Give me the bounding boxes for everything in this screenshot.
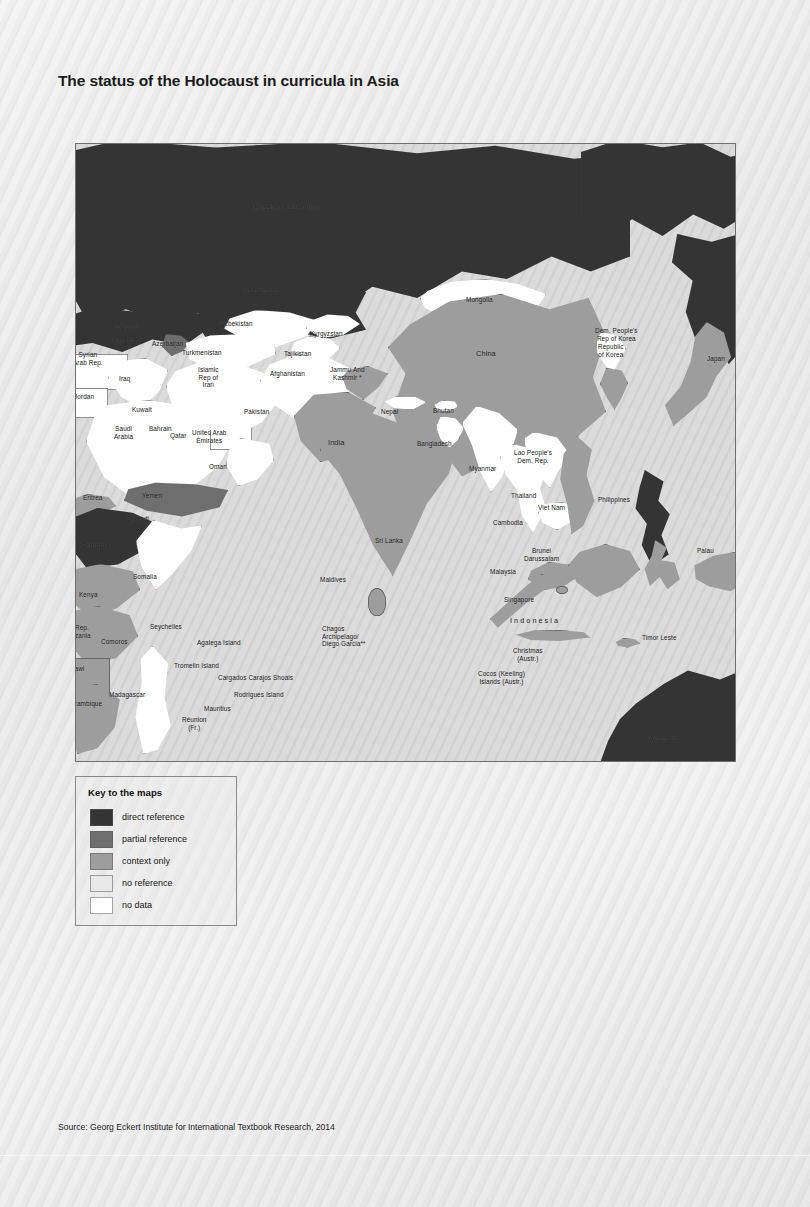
- map-label-ethiopia: Ethiopia: [82, 542, 110, 551]
- legend-swatch-direct-reference: [90, 809, 113, 826]
- map-label-kyrgyzstan: Kyrgyzstan: [310, 330, 343, 338]
- source-note: Source: Georg Eckert Institute for Inter…: [58, 1122, 335, 1132]
- map-label-eritrea: Eritrea: [83, 494, 103, 502]
- map-label-kuwait: Kuwait: [132, 406, 152, 414]
- map-label-republic-of-korea: Republic of Korea: [598, 343, 624, 358]
- map-label-mongolia: Mongolia: [466, 296, 493, 304]
- figure-sheet: The status of the Holocaust in curricula…: [0, 0, 810, 1207]
- map-label-united-rep-of-tanzania: Rep. zania: [75, 624, 91, 639]
- map-label-azerbaijan: Azerbaijan: [152, 340, 183, 348]
- map-label-malawi: lawi: [75, 665, 84, 673]
- country-singapore[interactable]: [556, 586, 568, 594]
- map-label-indonesia: Indonesia: [510, 617, 560, 625]
- legend-label-context-only: context only: [122, 856, 170, 866]
- asia-choropleth-map[interactable]: Russian Federation Kazakhstan Mongolia C…: [75, 143, 736, 762]
- map-label-jammu-and-kashmir: Jammu And Kashmir *: [330, 366, 365, 381]
- map-label-russian-federation: Russian Federation: [254, 204, 320, 213]
- map-label-jordan: Jordan: [75, 393, 94, 401]
- map-label-india: India: [328, 439, 345, 448]
- map-label-cargados-carajos-shoals: Cargados Carajos Shoals: [218, 674, 293, 682]
- legend-item-no-reference[interactable]: no reference: [90, 875, 173, 891]
- legend-swatch-no-reference: [90, 875, 113, 892]
- map-label-bhutan: Bhutan: [433, 407, 454, 415]
- map-label-saudi-arabia: Saudi Arabia: [114, 425, 133, 440]
- legend-item-context-only[interactable]: context only: [90, 853, 170, 869]
- map-label-afghanistan: Afghanistan: [270, 370, 305, 378]
- map-legend: Key to the maps direct reference partial…: [75, 776, 237, 926]
- map-label-chagos-archipelago-diego-garcia: Chagos Archipelago/ Diego Garcia**: [322, 625, 366, 648]
- map-label-comoros: Comoros: [101, 638, 128, 646]
- map-label-djibouti: Djibouti: [127, 515, 149, 523]
- map-label-seychelles: Seychelles: [150, 623, 182, 631]
- map-label-malaysia: Malaysia: [490, 568, 516, 576]
- map-label-uzbekistan: Uzbekistan: [220, 320, 253, 328]
- map-label-tromelin-island: Tromelin Island: [174, 662, 219, 670]
- legend-swatch-context-only: [90, 853, 113, 870]
- map-label-yemen: Yemen: [142, 492, 162, 500]
- map-label-turkmenistan: Turkmenistan: [182, 349, 222, 357]
- map-label-iraq: Iraq: [119, 375, 130, 383]
- map-label-cocos-keeling-islands-austr: Cocos (Keeling) Islands (Austr.): [478, 670, 525, 685]
- map-label-mauritius: Mauritius: [204, 705, 231, 713]
- map-label-cambodia: Cambodia: [493, 519, 523, 527]
- map-label-palau: Palau: [697, 547, 714, 555]
- map-label-tajikistan: Tajikistan: [284, 350, 311, 358]
- map-label-armenia: Armenia: [112, 337, 137, 345]
- legend-label-no-reference: no reference: [122, 878, 173, 888]
- legend-label-partial-reference: partial reference: [122, 834, 187, 844]
- map-label-reunion-fr: Réunion (Fr.): [182, 716, 207, 731]
- legend-item-direct-reference[interactable]: direct reference: [90, 809, 185, 825]
- country-sri-lanka[interactable]: [368, 588, 386, 616]
- map-label-pakistan: Pakistan: [244, 408, 269, 416]
- map-label-australia: Australia: [649, 735, 679, 744]
- map-label-bangladesh: Bangladesh: [417, 440, 452, 448]
- legend-swatch-no-data: [90, 897, 113, 914]
- map-label-singapore: Singapore: [504, 596, 534, 604]
- map-label-mozambique: ozambique: [75, 700, 102, 708]
- map-label-syrian-arab-rep: Syrian Arab Rep.: [75, 351, 103, 366]
- page-title: The status of the Holocaust in curricula…: [58, 72, 399, 90]
- map-label-oman: Oman: [209, 463, 227, 471]
- map-label-japan: Japan: [707, 355, 725, 363]
- map-label-madagascar: Madagascar: [109, 691, 145, 699]
- map-label-agalega-island: Agalega Island: [197, 639, 241, 647]
- map-label-rodrigues-island: Rodrigues Island: [234, 691, 284, 699]
- map-label-china: China: [476, 350, 496, 359]
- map-label-united-arab-emirates: United Arab Emirates: [192, 429, 227, 444]
- source-divider: [0, 1155, 810, 1156]
- legend-label-no-data: no data: [122, 900, 152, 910]
- map-label-philippines: Philippines: [598, 496, 630, 504]
- map-label-nepal: Nepal: [381, 408, 398, 416]
- map-label-maldives: Maldives: [320, 576, 346, 584]
- map-label-kazakhstan: Kazakhstan: [244, 287, 278, 295]
- map-label-myanmar: Myanmar: [469, 465, 496, 473]
- legend-swatch-partial-reference: [90, 831, 113, 848]
- map-label-georgia: Georgia: [116, 323, 139, 331]
- map-label-thailand: Thailand: [511, 492, 536, 500]
- map-label-somalia: Somalia: [133, 573, 157, 581]
- map-label-christmas-austr: Christmas (Austr.): [513, 647, 543, 662]
- map-label-timor-leste: Timor Leste: [642, 634, 677, 642]
- legend-label-direct-reference: direct reference: [122, 812, 185, 822]
- map-label-dem-peoples-rep-of-korea: Dem. People's Rep of Korea: [595, 327, 638, 342]
- map-label-lao-peoples-dem-rep: Lao People's Dem. Rep.: [514, 449, 552, 464]
- map-label-bahrain: Bahrain: [149, 425, 172, 433]
- legend-title: Key to the maps: [88, 787, 162, 798]
- map-label-sri-lanka: Sri Lanka: [375, 537, 403, 545]
- map-label-kenya: Kenya: [79, 591, 98, 599]
- map-label-islamic-rep-of-iran: Islamic Rep of Iran: [198, 366, 219, 389]
- legend-item-no-data[interactable]: no data: [90, 897, 152, 913]
- map-label-qatar: Qatar: [170, 432, 186, 440]
- legend-item-partial-reference[interactable]: partial reference: [90, 831, 187, 847]
- map-label-brunei-darussalam: Brunei Darussalam: [524, 547, 559, 562]
- map-label-viet-nam: Viet Nam: [538, 504, 565, 512]
